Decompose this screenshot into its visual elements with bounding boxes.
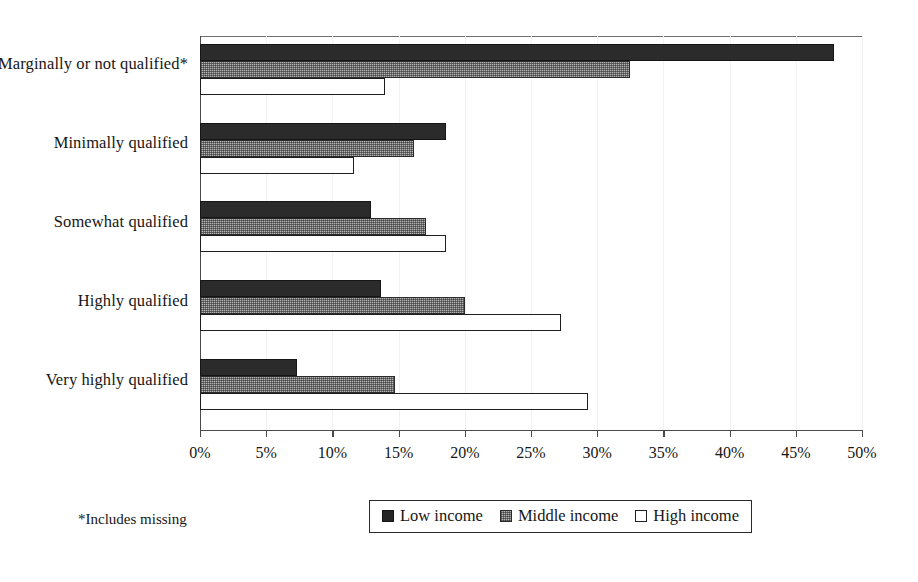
bar-group xyxy=(200,194,862,273)
swatch-low-icon xyxy=(382,510,394,522)
bar-middle-income xyxy=(200,297,465,314)
legend-item[interactable]: Low income xyxy=(382,506,483,526)
x-axis-tick-label: 5% xyxy=(236,444,296,462)
x-axis-tick xyxy=(465,430,466,437)
x-axis-tick xyxy=(200,430,201,437)
category-label: Minimally qualified xyxy=(0,132,188,153)
bar-low-income xyxy=(200,201,371,218)
plot-area xyxy=(200,36,862,430)
x-axis-tick xyxy=(531,430,532,437)
bar-middle-income xyxy=(200,376,395,393)
bar-low-income xyxy=(200,44,834,61)
x-axis-tick xyxy=(796,430,797,437)
x-axis-tick xyxy=(399,430,400,437)
bar-group xyxy=(200,351,862,430)
x-axis-tick-label: 20% xyxy=(435,444,495,462)
bar-group xyxy=(200,36,862,115)
bar-high-income xyxy=(200,78,385,95)
x-axis-tick-label: 0% xyxy=(170,444,230,462)
gridline xyxy=(862,36,863,430)
swatch-high-icon xyxy=(635,510,647,522)
bar-middle-income xyxy=(200,140,414,157)
x-axis-tick-label: 30% xyxy=(567,444,627,462)
x-axis-tick-label: 25% xyxy=(501,444,561,462)
legend-item-label: Low income xyxy=(400,506,483,526)
bar-group xyxy=(200,272,862,351)
category-label: Somewhat qualified xyxy=(0,211,188,232)
x-axis-tick-label: 15% xyxy=(369,444,429,462)
x-axis-tick-label: 50% xyxy=(832,444,892,462)
bar-middle-income xyxy=(200,218,426,235)
bar-low-income xyxy=(200,123,446,140)
category-label: Marginally or not qualified* xyxy=(0,53,188,74)
x-axis-tick-label: 40% xyxy=(700,444,760,462)
x-axis-tick xyxy=(332,430,333,437)
legend-item[interactable]: Middle income xyxy=(500,506,618,526)
x-axis-tick xyxy=(597,430,598,437)
bar-low-income xyxy=(200,359,297,376)
x-axis-tick xyxy=(266,430,267,437)
chart-legend: Low incomeMiddle incomeHigh income xyxy=(369,500,752,533)
bar-group xyxy=(200,115,862,194)
legend-item[interactable]: High income xyxy=(635,506,739,526)
category-label: Highly qualified xyxy=(0,290,188,311)
category-axis-labels: Marginally or not qualified*Minimally qu… xyxy=(0,36,196,430)
bar-middle-income xyxy=(200,61,630,78)
category-label: Very highly qualified xyxy=(0,369,188,390)
x-axis-tick-label: 10% xyxy=(302,444,362,462)
bar-chart: Marginally or not qualified*Minimally qu… xyxy=(0,0,918,582)
x-axis-tick xyxy=(730,430,731,437)
bar-high-income xyxy=(200,314,561,331)
footnote-text: *Includes missing xyxy=(78,511,187,528)
bar-high-income xyxy=(200,393,588,410)
bar-high-income xyxy=(200,157,354,174)
x-axis-tick-label: 35% xyxy=(633,444,693,462)
x-axis-tick xyxy=(663,430,664,437)
legend-item-label: Middle income xyxy=(518,506,618,526)
bar-high-income xyxy=(200,235,446,252)
swatch-middle-icon xyxy=(500,510,512,522)
legend-item-label: High income xyxy=(653,506,739,526)
x-axis-tick xyxy=(862,430,863,437)
bar-low-income xyxy=(200,280,381,297)
x-axis-tick-label: 45% xyxy=(766,444,826,462)
